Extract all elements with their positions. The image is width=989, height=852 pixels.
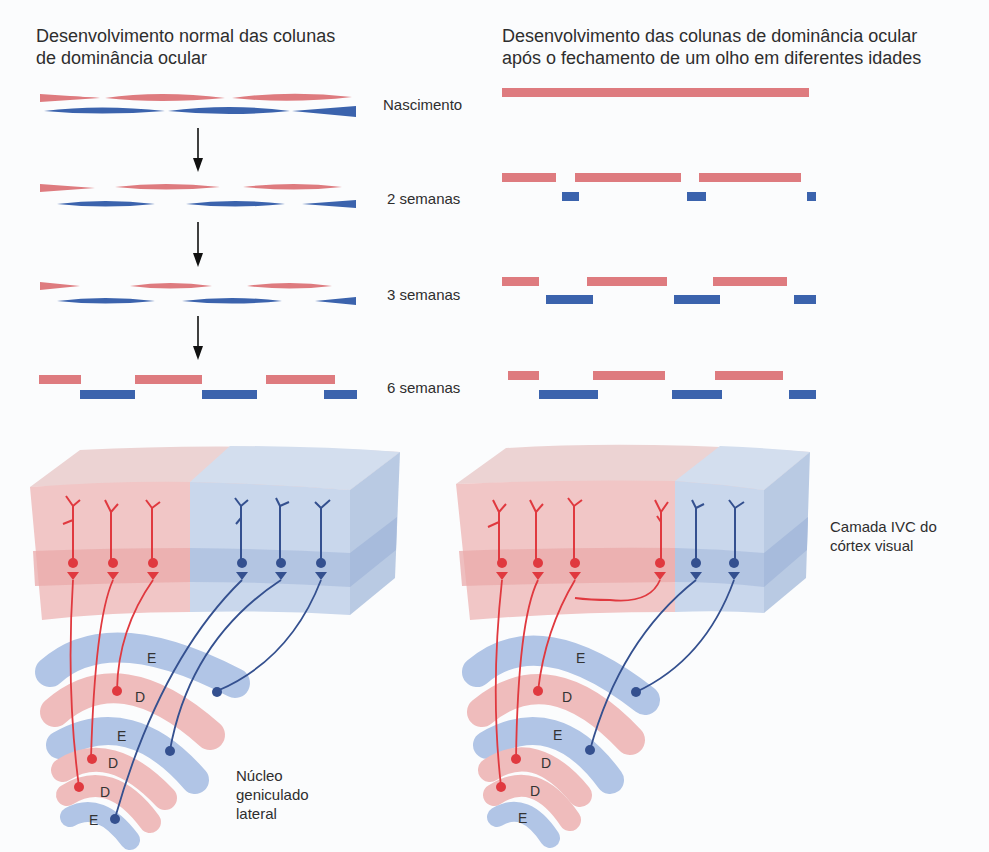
svg-text:E: E [89,812,98,828]
lgn-deprived [477,651,645,838]
svg-text:D: D [562,689,572,705]
svg-text:D: D [530,783,540,799]
strip-birth [40,94,356,117]
strip-6-weeks-deprived [508,371,816,399]
strip-birth-deprived [502,88,809,97]
svg-text:D: D [100,784,110,800]
deprivation-strips [502,88,816,399]
lgn-letter: E [147,650,156,666]
svg-text:E: E [518,810,527,826]
strip-3-weeks-deprived [502,277,816,304]
svg-text:D: D [135,689,145,705]
svg-text:E: E [553,727,562,743]
normal-development-strips [39,94,357,399]
svg-text:E: E [117,728,126,744]
svg-text:D: D [108,755,118,771]
svg-text:D: D [541,755,551,771]
diagram-canvas: E D E D D E [0,0,989,852]
arrow-down-icon [193,128,203,360]
cortex-block-normal [30,446,400,620]
svg-text:E: E [576,650,585,666]
strip-2-weeks-deprived [502,173,816,201]
lgn-normal [50,647,235,840]
strip-6-weeks [39,375,357,399]
strip-3-weeks [40,282,356,305]
cortex-block-deprived [456,445,810,620]
strip-2-weeks [40,184,356,208]
